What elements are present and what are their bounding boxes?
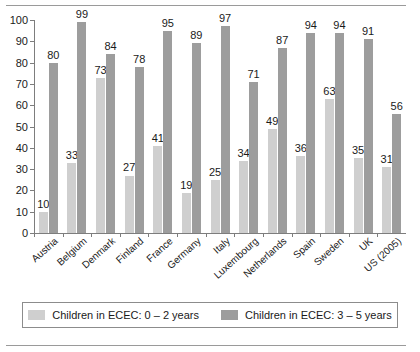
y-tick-label: 100 (10, 15, 28, 26)
chart-legend: Children in ECEC: 0 – 2 years Children i… (22, 302, 398, 328)
y-tick-mark (30, 212, 34, 213)
y-tick-label: 50 (16, 121, 28, 132)
bar-luxembourg-series-0[interactable] (239, 161, 248, 233)
bar-value-label: 84 (102, 41, 120, 52)
x-label-finland: Finland (115, 236, 146, 265)
bar-spain-series-0[interactable] (296, 156, 305, 233)
bar-germany-series-1[interactable] (192, 43, 201, 233)
bar-belgium-series-0[interactable] (67, 163, 76, 233)
y-tick-mark (30, 84, 34, 85)
bar-value-label: 71 (245, 69, 263, 80)
bar-spain-series-1[interactable] (306, 33, 315, 233)
bar-sweden-series-1[interactable] (335, 33, 344, 233)
bar-value-label: 56 (388, 101, 406, 112)
bar-value-label: 87 (273, 35, 291, 46)
bar-finland-series-1[interactable] (135, 67, 144, 233)
chart-page: 0102030405060708090100 10803399738427784… (0, 0, 420, 352)
y-tick-mark (30, 63, 34, 64)
y-tick-mark (30, 148, 34, 149)
legend-item-0[interactable]: Children in ECEC: 0 – 2 years (28, 310, 199, 321)
bar-netherlands-series-0[interactable] (268, 129, 277, 233)
bar-luxembourg-series-1[interactable] (249, 82, 258, 233)
y-tick-label: 80 (16, 57, 28, 68)
bar-france-series-0[interactable] (153, 146, 162, 233)
bar-value-label: 95 (159, 18, 177, 29)
y-tick-mark (30, 105, 34, 106)
bar-value-label: 94 (330, 20, 348, 31)
x-axis-category-labels: AustriaBelgiumDenmarkFinlandFranceGerman… (34, 236, 406, 298)
bar-value-label: 89 (187, 30, 205, 41)
bar-uk-series-1[interactable] (364, 39, 373, 233)
bar-france-series-1[interactable] (163, 31, 172, 233)
bar-value-label: 78 (130, 54, 148, 65)
bar-sweden-series-0[interactable] (325, 99, 334, 233)
plot-area: 0102030405060708090100 10803399738427784… (34, 20, 406, 234)
legend-label-0: Children in ECEC: 0 – 2 years (52, 310, 199, 321)
bar-netherlands-series-1[interactable] (278, 48, 287, 233)
legend-label-1: Children in ECEC: 3 – 5 years (245, 310, 392, 321)
bar-value-label: 91 (359, 26, 377, 37)
bar-denmark-series-0[interactable] (96, 78, 105, 233)
bar-value-label: 80 (44, 50, 62, 61)
bar-belgium-series-1[interactable] (77, 22, 86, 233)
bar-italy-series-0[interactable] (211, 180, 220, 233)
bar-value-label: 99 (73, 9, 91, 20)
y-tick-label: 60 (16, 100, 28, 111)
bottom-divider-rule (6, 345, 406, 346)
y-tick-label: 30 (16, 164, 28, 175)
x-label-italy: Italy (212, 236, 232, 256)
y-tick-label: 0 (22, 228, 28, 239)
y-tick-mark (30, 41, 34, 42)
y-tick-label: 40 (16, 142, 28, 153)
bar-us-2005--series-0[interactable] (382, 167, 391, 233)
top-divider-rule (6, 5, 406, 6)
bar-germany-series-0[interactable] (182, 193, 191, 233)
y-tick-label: 20 (16, 185, 28, 196)
bar-denmark-series-1[interactable] (106, 54, 115, 233)
legend-item-1[interactable]: Children in ECEC: 3 – 5 years (221, 310, 392, 321)
bar-us-2005--series-1[interactable] (392, 114, 401, 233)
bar-finland-series-0[interactable] (125, 176, 134, 234)
bar-austria-series-1[interactable] (49, 63, 58, 233)
bar-value-label: 94 (302, 20, 320, 31)
x-label-sweden: Sweden (313, 236, 347, 268)
bar-uk-series-0[interactable] (354, 158, 363, 233)
x-label-uk: UK (358, 236, 375, 253)
y-tick-mark (30, 169, 34, 170)
bar-value-label: 97 (216, 13, 234, 24)
y-tick-mark (30, 20, 34, 21)
y-tick-mark (30, 190, 34, 191)
x-axis-line (34, 233, 406, 234)
y-tick-label: 10 (16, 206, 28, 217)
y-tick-label: 70 (16, 78, 28, 89)
y-tick-label: 90 (16, 36, 28, 47)
y-tick-mark (30, 127, 34, 128)
legend-swatch-light-icon (28, 310, 45, 320)
bar-italy-series-1[interactable] (221, 26, 230, 233)
legend-swatch-dark-icon (221, 310, 238, 320)
bar-austria-series-0[interactable] (39, 212, 48, 233)
